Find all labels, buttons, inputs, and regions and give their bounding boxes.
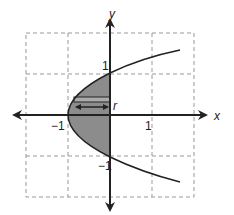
diagram-canvas: y x 1 −1 −1 1 r [0, 0, 234, 215]
strip [74, 97, 110, 102]
x-axis-label: x [213, 109, 221, 123]
x-tick-1: 1 [145, 119, 152, 133]
x-tick-neg1: −1 [51, 119, 65, 133]
y-axis-label: y [108, 7, 116, 21]
strip-label: r [113, 99, 118, 113]
y-tick-1: 1 [102, 59, 109, 73]
y-tick-neg1: −1 [98, 159, 112, 173]
